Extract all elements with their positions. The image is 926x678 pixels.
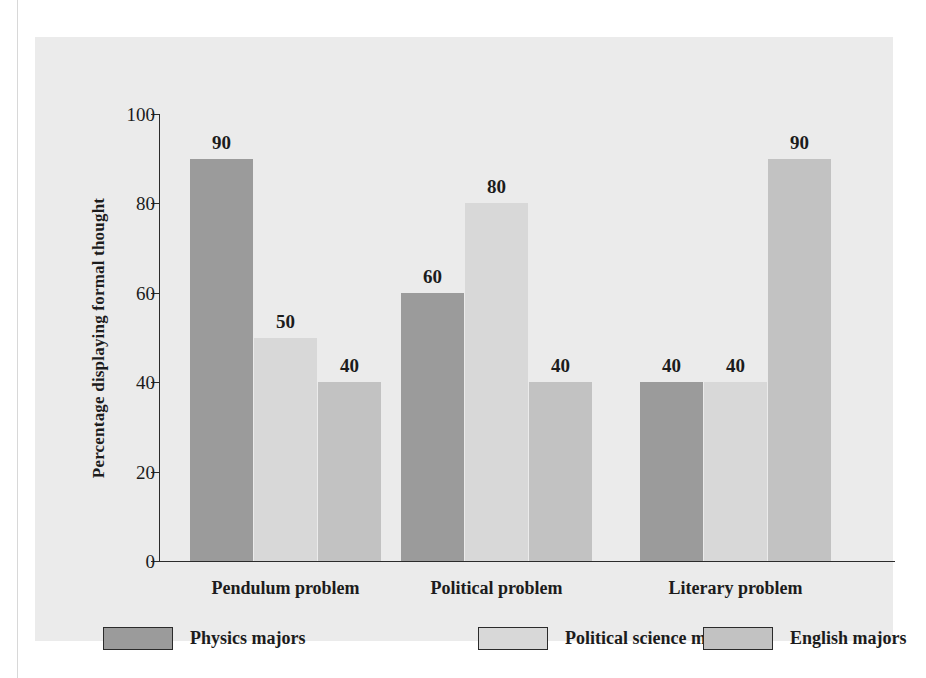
bar-value-label: 80	[487, 176, 506, 198]
bar-value-label: 40	[726, 355, 745, 377]
chart-legend: Physics majorsPolitical science majorsEn…	[103, 627, 903, 653]
bar: 40	[529, 382, 592, 561]
plot-area: 020406080100 905040608040404090 Pendulum…	[160, 114, 895, 561]
bar-value-label: 60	[423, 266, 442, 288]
legend-label: English majors	[790, 628, 907, 649]
category-axis-label: Political problem	[430, 578, 562, 599]
y-axis-tick-label: 80	[136, 193, 155, 215]
y-axis-line	[159, 114, 160, 561]
bar: 50	[254, 338, 317, 562]
bar-value-label: 90	[212, 132, 231, 154]
bar: 40	[318, 382, 381, 561]
category-axis-label: Pendulum problem	[211, 578, 359, 599]
legend-item[interactable]: Physics majors	[103, 627, 306, 650]
legend-item[interactable]: English majors	[703, 627, 907, 650]
bar: 90	[190, 159, 253, 561]
bar-value-label: 40	[662, 355, 681, 377]
bar: 80	[465, 203, 528, 561]
bar-value-label: 50	[276, 311, 295, 333]
legend-label: Physics majors	[190, 628, 306, 649]
chart-figure-panel: Percentage displaying formal thought 020…	[35, 37, 893, 641]
y-axis-title: Percentage displaying formal thought	[87, 114, 111, 561]
bar: 40	[704, 382, 767, 561]
legend-color-swatch	[703, 627, 773, 650]
y-axis-tick-label: 100	[127, 104, 156, 126]
bar: 90	[768, 159, 831, 561]
bar-value-label: 40	[551, 355, 570, 377]
bar-value-label: 90	[790, 132, 809, 154]
legend-color-swatch	[478, 627, 548, 650]
bar: 60	[401, 293, 464, 561]
category-axis-label: Literary problem	[668, 578, 802, 599]
y-axis-tick-label: 0	[146, 551, 156, 573]
y-axis-tick-label: 40	[136, 372, 155, 394]
y-axis-tick-label: 20	[136, 462, 155, 484]
page-edge-rule	[17, 0, 18, 678]
legend-color-swatch	[103, 627, 173, 650]
y-axis-tick-label: 60	[136, 283, 155, 305]
bar: 40	[640, 382, 703, 561]
y-axis-title-text: Percentage displaying formal thought	[89, 197, 109, 477]
bar-value-label: 40	[340, 355, 359, 377]
x-axis-line	[159, 561, 895, 562]
